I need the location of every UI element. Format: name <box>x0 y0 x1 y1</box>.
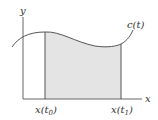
x-axis-label: x <box>145 93 151 104</box>
left-bound-label: x(t0) <box>35 104 57 117</box>
right-bound-label: x(t1) <box>111 104 133 117</box>
curve-label: c(t) <box>127 19 145 30</box>
area-under-curve-diagram: y x c(t) x(t0) x(t1) <box>0 0 158 120</box>
shaded-area <box>45 32 121 99</box>
y-axis-label: y <box>19 5 26 16</box>
